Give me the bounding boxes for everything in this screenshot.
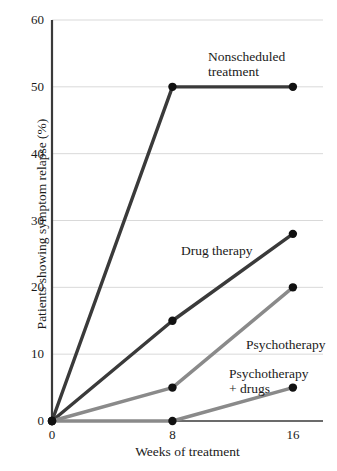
series-label-drug-therapy: Drug therapy [181,243,253,258]
series-label-line1: Nonscheduled [208,49,285,64]
plot-area [0,0,337,471]
data-point-marker [289,283,297,291]
y-tick-label: 0 [14,414,44,427]
x-tick-label: 0 [37,428,67,441]
data-point-marker [289,230,297,238]
series-label-psychotherapy: Psychotherapy [246,337,325,352]
series-label-line2: treatment [208,64,285,79]
x-tick-label: 8 [157,428,187,441]
series-label-line1: Psychotherapy [246,337,325,352]
y-tick-label: 50 [14,80,44,93]
y-tick-label: 10 [14,347,44,360]
data-point-marker [168,83,176,91]
series-label-line1: Drug therapy [181,243,253,258]
data-point-marker [289,83,297,91]
data-point-marker [168,383,176,391]
y-tick-label: 60 [14,13,44,26]
series-label-psychotherapy-plus-drugs: Psychotherapy + drugs [229,366,308,396]
relapse-line-chart: 0102030405060 0816 Patients showing symp… [0,0,337,471]
data-point-marker [48,417,56,425]
x-axis-title: Weeks of treatment [52,444,323,460]
data-point-marker [168,417,176,425]
series-label-nonscheduled-treatment: Nonscheduled treatment [208,49,285,79]
x-tick-label: 16 [278,428,308,441]
y-axis-title: Patients showing symptom relapse (%) [34,104,50,344]
data-point-marker [168,317,176,325]
series-label-line2: + drugs [229,381,308,396]
series-label-line1: Psychotherapy [229,366,308,381]
